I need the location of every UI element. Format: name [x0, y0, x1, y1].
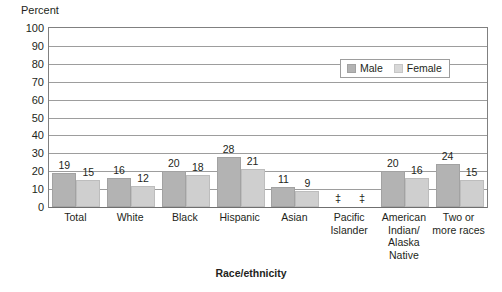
- x-tick-label-line: White: [103, 211, 158, 224]
- bar: [381, 171, 405, 207]
- y-axis-title: Percent: [21, 4, 59, 17]
- bar: [295, 191, 319, 207]
- x-tick-label-line: Total: [48, 211, 103, 224]
- x-tick-label-line: Alaska: [377, 236, 432, 249]
- x-tick-label-line: Indian/: [377, 224, 432, 237]
- y-tick-label-90: 90: [10, 41, 44, 52]
- y-tick-label-100: 100: [10, 23, 44, 34]
- bar-value-label: 15: [460, 167, 484, 178]
- chart-legend: Male Female: [340, 59, 450, 78]
- gridline-0: [49, 207, 487, 208]
- x-axis-ticks: TotalWhiteBlackHispanicAsianPacificIslan…: [48, 211, 488, 273]
- x-axis-title: Race/ethnicity: [0, 267, 502, 279]
- bar-value-label: 11: [271, 174, 295, 185]
- y-tick-label-80: 80: [10, 59, 44, 70]
- bar: [76, 180, 100, 207]
- suppressed-value-marker: ‡: [326, 193, 350, 204]
- y-tick-label-60: 60: [10, 95, 44, 106]
- bar-value-label: 20: [162, 158, 186, 169]
- bar: [107, 178, 131, 207]
- x-tick-label-line: Two or: [431, 211, 486, 224]
- y-tick-label-70: 70: [10, 77, 44, 88]
- bar: [52, 173, 76, 207]
- legend-label-female: Female: [407, 63, 442, 74]
- bar: [186, 175, 210, 207]
- bar: [131, 186, 155, 207]
- bar-group: ‡‡: [326, 28, 374, 207]
- bar-value-label: 21: [241, 156, 265, 167]
- bar-value-label: 16: [107, 165, 131, 176]
- x-tick-label: PacificIslander: [322, 211, 377, 236]
- bars-layer: 1915161220182821119‡‡20162415: [49, 28, 487, 207]
- x-tick-label: Asian: [267, 211, 322, 224]
- bar: [162, 171, 186, 207]
- x-tick-label-line: Native: [377, 249, 432, 262]
- bar-value-label: 19: [52, 160, 76, 171]
- bar-value-label: 16: [405, 165, 429, 176]
- y-tick-label-0: 0: [10, 202, 44, 213]
- x-tick-label-line: Islander: [322, 224, 377, 237]
- bar-group: 2415: [436, 28, 484, 207]
- legend-swatch-female-icon: [394, 64, 403, 73]
- x-tick-label-line: American: [377, 211, 432, 224]
- bar-group: 2018: [162, 28, 210, 207]
- x-tick-label-line: Hispanic: [212, 211, 267, 224]
- legend-item-female: Female: [394, 63, 442, 74]
- x-tick-label: Hispanic: [212, 211, 267, 224]
- bar-group: 1915: [52, 28, 100, 207]
- y-tick-label-30: 30: [10, 148, 44, 159]
- bar-group: 2016: [381, 28, 429, 207]
- x-tick-label-line: more races: [431, 224, 486, 237]
- plot-area: 1915161220182821119‡‡20162415: [48, 27, 488, 208]
- y-tick-label-10: 10: [10, 184, 44, 195]
- bar-group: 119: [271, 28, 319, 207]
- bar-group: 2821: [217, 28, 265, 207]
- y-tick-label-50: 50: [10, 113, 44, 124]
- y-tick-label-40: 40: [10, 130, 44, 141]
- bar-value-label: 15: [76, 167, 100, 178]
- x-tick-label: Black: [158, 211, 213, 224]
- x-tick-label: Two ormore races: [431, 211, 486, 236]
- x-tick-label: White: [103, 211, 158, 224]
- y-tick-label-20: 20: [10, 166, 44, 177]
- bar: [405, 178, 429, 207]
- legend-swatch-male-icon: [347, 64, 356, 73]
- bar: [271, 187, 295, 207]
- bar-value-label: 18: [186, 162, 210, 173]
- bar: [241, 169, 265, 207]
- x-tick-label-line: Black: [158, 211, 213, 224]
- suppressed-value-marker: ‡: [350, 193, 374, 204]
- bar-chart: Percent 1915161220182821119‡‡20162415 10…: [0, 0, 502, 292]
- x-tick-label-line: Pacific: [322, 211, 377, 224]
- bar-value-label: 9: [295, 178, 319, 189]
- bar: [436, 164, 460, 207]
- bar-value-label: 28: [217, 144, 241, 155]
- legend-item-male: Male: [347, 63, 383, 74]
- bar-group: 1612: [107, 28, 155, 207]
- x-tick-label: AmericanIndian/AlaskaNative: [377, 211, 432, 261]
- legend-label-male: Male: [360, 63, 383, 74]
- bar-value-label: 20: [381, 158, 405, 169]
- bar-value-label: 12: [131, 173, 155, 184]
- x-tick-label-line: Asian: [267, 211, 322, 224]
- bar: [217, 157, 241, 207]
- x-tick-label: Total: [48, 211, 103, 224]
- bar-value-label: 24: [436, 151, 460, 162]
- bar: [460, 180, 484, 207]
